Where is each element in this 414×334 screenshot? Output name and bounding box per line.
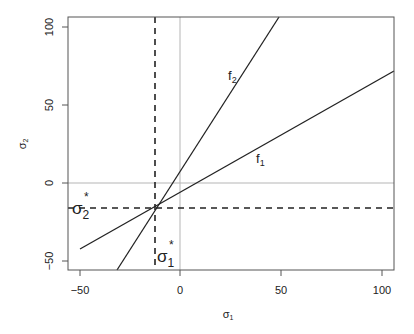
f1-label: f1	[256, 151, 265, 168]
x-tick-label: 0	[177, 284, 183, 296]
y-tick-label: −50	[43, 252, 55, 271]
y-axis-label: σ2	[16, 139, 29, 150]
y-tick-labels: 100 50 0 −50	[43, 18, 55, 271]
x-tick-labels: −50 0 50 100	[71, 284, 392, 296]
y-tick-label: 0	[43, 180, 55, 186]
f1-line	[80, 71, 394, 249]
sigma2-star-asterisk: *	[84, 190, 89, 204]
plot-frame	[68, 17, 394, 270]
x-tick-label: 50	[275, 284, 287, 296]
chart: −50 0 50 100 100 50 0 −50 σ1 σ2 f2 f1 σ2…	[0, 0, 414, 334]
x-axis-label: σ1	[223, 308, 234, 321]
sigma1-star-asterisk: *	[169, 238, 174, 252]
x-tick-label: 100	[373, 284, 391, 296]
f2-label: f2	[228, 68, 237, 85]
y-tick-label: 100	[43, 18, 55, 36]
x-tick-label: −50	[71, 284, 90, 296]
y-tick-label: 50	[43, 99, 55, 111]
x-axis-ticks	[80, 270, 382, 276]
f2-line	[117, 17, 279, 270]
y-axis-ticks	[62, 27, 68, 261]
